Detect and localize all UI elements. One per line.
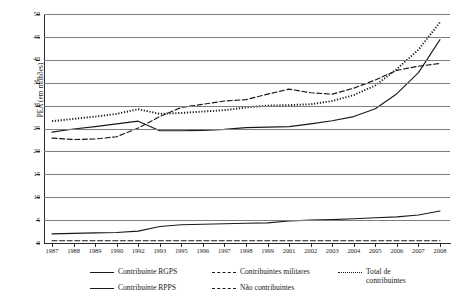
gridline [44, 197, 450, 198]
series-line-contribuinte-rgps [52, 40, 440, 133]
legend-line-solid [90, 272, 114, 273]
y-tick-mark [36, 174, 40, 175]
x-tick-mark [332, 244, 333, 247]
y-tick-mark [36, 83, 40, 84]
x-tick-mark [354, 244, 355, 247]
gridline [44, 106, 450, 107]
x-tick-mark [52, 244, 53, 247]
gridline [44, 37, 450, 38]
legend-label: Contribuinte RPPS [118, 283, 176, 292]
x-tick-mark [246, 244, 247, 247]
x-tick-mark [224, 244, 225, 247]
x-tick-mark [74, 244, 75, 247]
x-tick-mark [95, 244, 96, 247]
legend-label: Contribuintes militares [240, 267, 310, 276]
legend-swatch-dashed [212, 284, 236, 292]
legend-label: Não contribuintes [240, 283, 294, 292]
x-tick-mark [375, 244, 376, 247]
y-tick-mark [36, 37, 40, 38]
x-tick-mark [289, 244, 290, 247]
gridline [44, 83, 450, 84]
y-tick-mark [36, 60, 40, 61]
legend-line-dotted [338, 272, 362, 273]
legend-swatch-dashed [212, 268, 236, 276]
gridline [44, 129, 450, 130]
y-tick-mark [36, 243, 40, 244]
chart-legend: Contribuinte RGPSContribuinte RPPSContri… [0, 264, 467, 306]
x-tick-mark [311, 244, 312, 247]
x-axis-line [44, 243, 451, 244]
legend-label-line2: contribuintes [366, 276, 406, 285]
x-tick-mark [397, 244, 398, 247]
y-tick-mark [36, 197, 40, 198]
x-tick-mark [117, 244, 118, 247]
legend-swatch-solid [90, 268, 114, 276]
legend-swatch-solid [90, 284, 114, 292]
x-tick-mark [160, 244, 161, 247]
legend-line-solid [90, 288, 114, 289]
gridline [44, 14, 450, 15]
gridline [44, 151, 450, 152]
x-tick-mark [203, 244, 204, 247]
legend-line-dashed [212, 272, 236, 273]
x-tick-mark [418, 244, 419, 247]
y-tick-mark [36, 106, 40, 107]
series-line-contribuinte-rpps [52, 211, 440, 234]
gridline [44, 220, 450, 221]
legend-label: Contribuinte RGPS [118, 267, 177, 276]
legend-label: Total decontribuintes [366, 267, 406, 285]
y-tick-mark [36, 220, 40, 221]
gridline [44, 174, 450, 175]
x-tick-mark [268, 244, 269, 247]
legend-line-dashed [212, 288, 236, 289]
x-tick-mark [440, 244, 441, 247]
plot-area [44, 14, 450, 243]
y-tick-mark [36, 14, 40, 15]
y-tick-mark [36, 128, 40, 129]
gridline [44, 60, 450, 61]
chart-container: PEA (em milhões) 05101520253035404550 19… [0, 0, 467, 306]
x-tick-label: 2008 [427, 247, 453, 254]
x-tick-mark [181, 244, 182, 247]
y-tick-mark [36, 151, 40, 152]
x-tick-mark [138, 244, 139, 247]
legend-swatch-dotted [338, 268, 362, 276]
